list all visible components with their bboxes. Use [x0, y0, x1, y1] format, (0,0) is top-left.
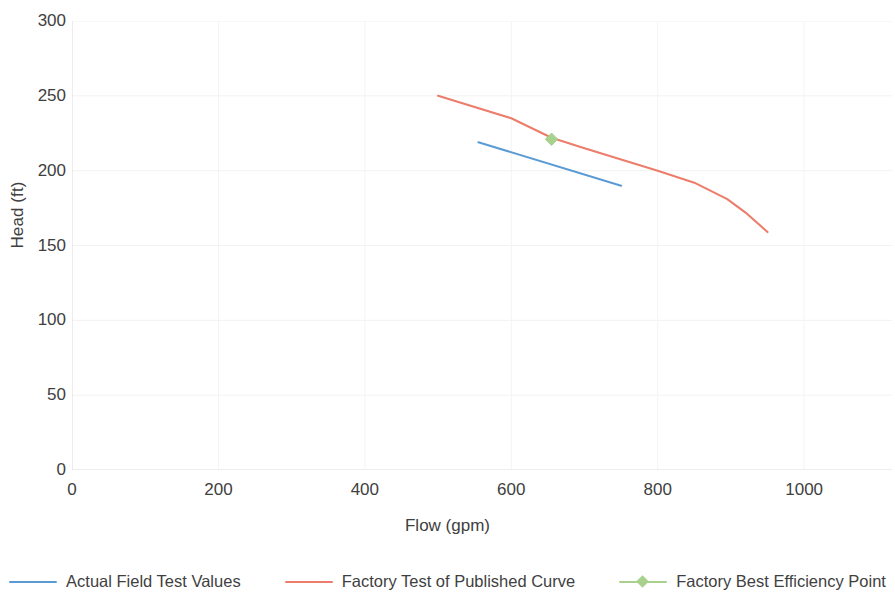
gridlines	[72, 21, 892, 470]
y-tick-label: 250	[12, 87, 66, 104]
legend-label: Factory Best Efficiency Point	[676, 573, 886, 590]
x-tick-label: 1000	[764, 481, 844, 498]
legend-item[interactable]: Actual Field Test Values	[9, 573, 241, 590]
legend-swatch-icon	[619, 575, 667, 589]
x-tick-label: 600	[471, 481, 551, 498]
y-tick-label: 50	[12, 386, 66, 403]
legend-line-icon	[9, 581, 57, 583]
legend-label: Actual Field Test Values	[66, 573, 241, 590]
y-tick-label: 100	[12, 311, 66, 328]
plot-svg	[72, 21, 892, 470]
legend-label: Factory Test of Published Curve	[342, 573, 576, 590]
chart-legend: Actual Field Test ValuesFactory Test of …	[0, 566, 895, 597]
pump-curve-chart: Head (ft) 050100150200250300 02004006008…	[0, 0, 895, 597]
y-tick-label: 0	[12, 461, 66, 478]
x-tick-label: 0	[32, 481, 112, 498]
x-tick-label: 800	[618, 481, 698, 498]
legend-item[interactable]: Factory Best Efficiency Point	[619, 573, 886, 590]
x-tick-label: 200	[178, 481, 258, 498]
y-axis-tick-labels: 050100150200250300	[0, 0, 66, 597]
series-1	[438, 96, 767, 232]
x-tick-label: 400	[325, 481, 405, 498]
series-0	[478, 142, 621, 185]
series-line	[438, 96, 767, 232]
x-axis-title: Flow (gpm)	[0, 516, 895, 536]
data-series-layer	[438, 96, 767, 232]
legend-swatch-icon	[285, 575, 333, 589]
legend-swatch-icon	[9, 575, 57, 589]
legend-line-icon	[285, 581, 333, 583]
y-tick-label: 300	[12, 12, 66, 29]
y-tick-label: 200	[12, 162, 66, 179]
series-line	[478, 142, 621, 185]
legend-diamond-marker-icon	[636, 575, 649, 588]
y-tick-label: 150	[12, 237, 66, 254]
plot-area	[72, 21, 892, 470]
legend-item[interactable]: Factory Test of Published Curve	[285, 573, 576, 590]
